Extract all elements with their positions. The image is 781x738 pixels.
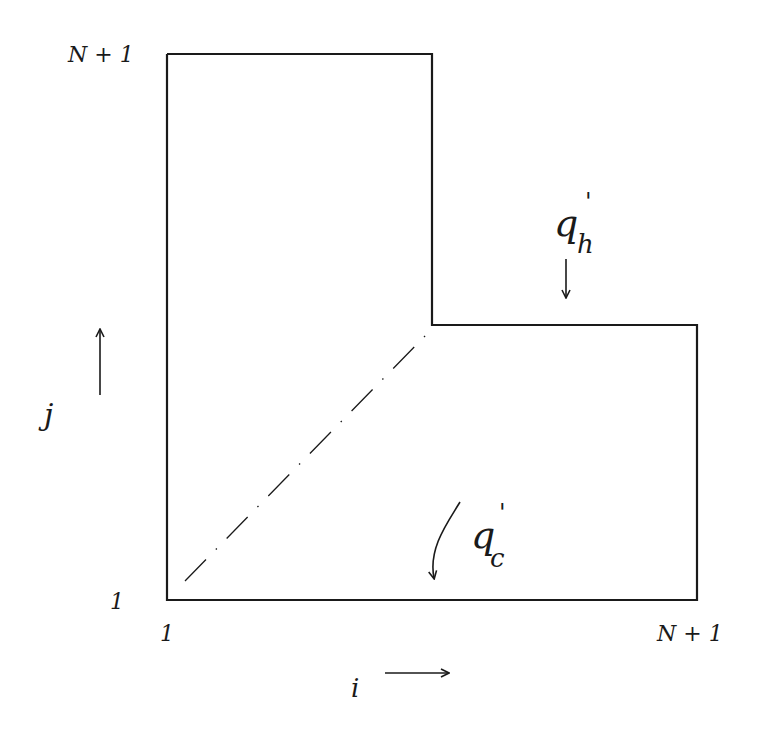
label-j-max: N + 1 <box>67 42 134 67</box>
q-c-curved-arrow-icon <box>433 502 460 578</box>
label-j-axis: j <box>38 397 53 432</box>
svg-text:c: c <box>490 543 505 573</box>
svg-text:': ' <box>585 188 592 216</box>
label-i-min: 1 <box>160 621 174 646</box>
diagonal-dash-dot-line <box>185 333 428 581</box>
label-q-c-flux: q ' c <box>471 499 506 573</box>
label-q-h-flux: q ' h <box>554 188 594 259</box>
label-j-min: 1 <box>110 589 124 614</box>
svg-text:q: q <box>554 201 578 245</box>
label-i-axis: i <box>351 673 359 703</box>
l-shaped-domain-diagram: N + 1 1 1 N + 1 j i q ' h q ' c <box>0 0 781 738</box>
svg-text:h: h <box>577 229 594 259</box>
label-i-max: N + 1 <box>656 621 723 646</box>
svg-text:': ' <box>499 499 506 527</box>
